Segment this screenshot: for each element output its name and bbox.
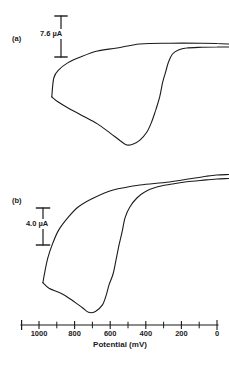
cv-curve-panel-b bbox=[43, 175, 229, 313]
scale-bar-label-a: 7.6 µA bbox=[38, 29, 64, 39]
x-tick-label-0: 0 bbox=[215, 330, 219, 338]
x-tick-label-800: 800 bbox=[68, 330, 81, 338]
x-tick-label-400: 400 bbox=[140, 330, 153, 338]
voltammogram-figure: (a) 7.6 µA (b) 4.0 µA 10008006004002000 … bbox=[0, 0, 229, 370]
x-tick-label-1000: 1000 bbox=[31, 330, 48, 338]
cv-curve-panel-a bbox=[52, 43, 229, 145]
x-tick-label-200: 200 bbox=[175, 330, 188, 338]
x-axis bbox=[21, 321, 218, 330]
reverse_scan-path-a bbox=[52, 43, 229, 97]
panel-label-b: (b) bbox=[12, 197, 22, 205]
x-tick-label-600: 600 bbox=[104, 330, 117, 338]
forward_scan-path-a bbox=[52, 47, 229, 145]
forward_scan-path-b bbox=[43, 179, 229, 313]
x-axis-title: Potential (mV) bbox=[93, 341, 147, 349]
scale-bar-label-b: 4.0 µA bbox=[24, 219, 50, 229]
voltammogram-plot-canvas bbox=[0, 0, 229, 370]
panel-label-a: (a) bbox=[12, 35, 21, 43]
reverse_scan-path-b bbox=[43, 175, 229, 283]
